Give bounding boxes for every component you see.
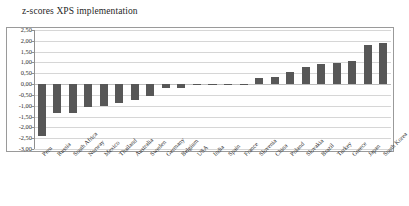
bar bbox=[115, 84, 123, 103]
bar bbox=[69, 84, 77, 113]
bar bbox=[379, 43, 387, 84]
bar bbox=[38, 84, 46, 135]
bar bbox=[100, 84, 108, 106]
bar-series bbox=[34, 30, 391, 149]
y-axis-tick-label: -0,50 bbox=[8, 92, 32, 98]
bar bbox=[286, 72, 294, 84]
y-axis-tick-label: -2,00 bbox=[8, 124, 32, 130]
y-axis-tick-label: 2,50 bbox=[8, 27, 32, 33]
y-axis-tick-label: 0,50 bbox=[8, 70, 32, 76]
bar bbox=[208, 84, 216, 85]
bar bbox=[53, 84, 61, 113]
y-axis-tick-label: 1,00 bbox=[8, 59, 32, 65]
bar bbox=[240, 84, 248, 85]
y-axis-tick-label: 2,00 bbox=[8, 38, 32, 44]
y-axis-tick-label: -1,50 bbox=[8, 113, 32, 119]
bar bbox=[302, 67, 310, 84]
plot-area bbox=[34, 30, 391, 149]
y-axis: 2,502,001,501,000,500,00-0,50-1,00-1,50-… bbox=[8, 27, 32, 152]
bar bbox=[317, 64, 325, 84]
y-axis-tick-label: -2,50 bbox=[8, 135, 32, 141]
y-axis-tick-label: 1,50 bbox=[8, 48, 32, 54]
bar bbox=[177, 84, 185, 88]
bar bbox=[348, 61, 356, 84]
y-axis-tick-label: -3,00 bbox=[8, 146, 32, 152]
bar bbox=[255, 78, 263, 84]
bar bbox=[364, 45, 372, 84]
bar bbox=[271, 77, 279, 84]
y-axis-tick bbox=[31, 149, 34, 150]
bar bbox=[146, 84, 154, 96]
bar bbox=[224, 84, 232, 85]
bar bbox=[193, 84, 201, 85]
bar bbox=[84, 84, 92, 107]
bar bbox=[131, 84, 139, 100]
x-axis-labels: PeruRussiaSouth AfricaNorwayMexicoThaila… bbox=[34, 153, 391, 206]
bar bbox=[333, 63, 341, 84]
y-axis-tick-label: -1,00 bbox=[8, 103, 32, 109]
y-axis-tick-label: 0,00 bbox=[8, 81, 32, 87]
chart-title: z-scores XPS implementation bbox=[22, 6, 138, 16]
bar bbox=[162, 84, 170, 88]
